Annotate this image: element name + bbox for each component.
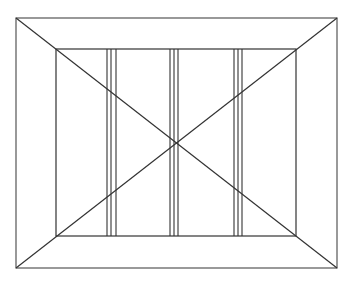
vertical-line-groups	[107, 49, 242, 236]
frame-diagram	[0, 0, 349, 287]
corner-connectors	[16, 18, 337, 268]
